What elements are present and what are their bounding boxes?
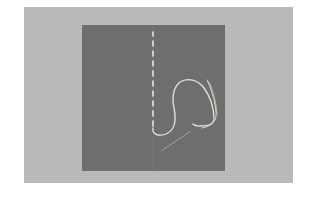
stitching-illustration xyxy=(0,0,310,199)
thread xyxy=(153,80,214,136)
